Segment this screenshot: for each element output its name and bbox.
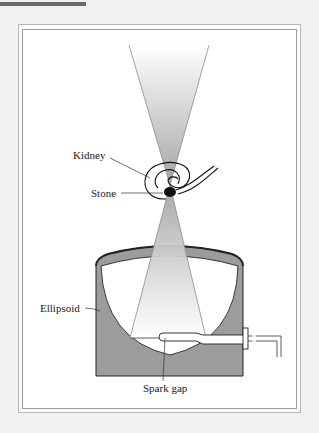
stone-label: Stone (91, 188, 116, 199)
upper-beam-cone (129, 45, 209, 185)
spark-gap-label: Spark gap (143, 383, 187, 394)
kidney[interactable] (145, 163, 218, 200)
kidney-stone[interactable] (164, 187, 176, 197)
lithotripsy-diagram (0, 0, 319, 433)
kidney-label: Kidney (73, 150, 105, 161)
ellipsoid-label: Ellipsoid (40, 303, 80, 314)
kidney-leader-line (110, 158, 150, 178)
